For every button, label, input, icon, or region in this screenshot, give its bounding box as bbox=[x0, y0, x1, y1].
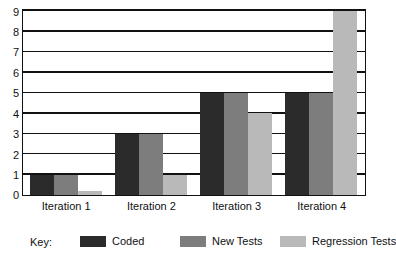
bar bbox=[285, 93, 309, 195]
y-tick-label: 3 bbox=[13, 129, 19, 140]
legend: Key: CodedNew TestsRegression Tests bbox=[30, 234, 370, 252]
bar bbox=[54, 175, 78, 195]
legend-title: Key: bbox=[30, 236, 52, 249]
bar bbox=[30, 175, 54, 195]
y-axis: 0123456789 bbox=[0, 4, 20, 196]
y-tick-label: 7 bbox=[13, 47, 19, 58]
bar bbox=[115, 134, 139, 195]
legend-label: Coded bbox=[112, 235, 144, 248]
bar bbox=[163, 175, 187, 195]
legend-label: New Tests bbox=[212, 235, 263, 248]
y-tick-label: 0 bbox=[13, 190, 19, 201]
x-axis: Iteration 1Iteration 2Iteration 3Iterati… bbox=[22, 200, 366, 216]
bar bbox=[200, 93, 224, 195]
y-tick-label: 4 bbox=[13, 109, 19, 120]
bar-group bbox=[108, 10, 193, 195]
y-tick-label: 1 bbox=[13, 170, 19, 181]
bars-layer bbox=[23, 10, 365, 195]
y-tick-label: 2 bbox=[13, 150, 19, 161]
legend-swatch bbox=[80, 236, 106, 247]
bar-group bbox=[279, 10, 364, 195]
y-tick-label: 5 bbox=[13, 88, 19, 99]
y-tick-label: 9 bbox=[13, 7, 19, 18]
legend-label: Regression Tests bbox=[312, 235, 396, 248]
x-tick-label: Iteration 1 bbox=[24, 200, 109, 213]
bar bbox=[248, 113, 272, 195]
x-tick-label: Iteration 3 bbox=[194, 200, 279, 213]
legend-swatch bbox=[280, 236, 306, 247]
bar-group bbox=[193, 10, 278, 195]
legend-swatch bbox=[180, 236, 206, 247]
bar bbox=[224, 93, 248, 195]
bar-group bbox=[23, 10, 108, 195]
bar bbox=[309, 93, 333, 195]
x-tick-label: Iteration 2 bbox=[109, 200, 194, 213]
y-tick-label: 6 bbox=[13, 68, 19, 79]
bar bbox=[333, 11, 357, 195]
x-tick-label: Iteration 4 bbox=[279, 200, 364, 213]
plot-area bbox=[22, 9, 366, 196]
bar bbox=[78, 191, 102, 195]
y-tick-label: 8 bbox=[13, 27, 19, 38]
bar bbox=[139, 134, 163, 195]
